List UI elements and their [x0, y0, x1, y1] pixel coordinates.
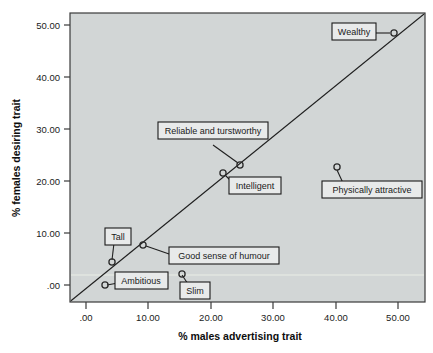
y-axis-tick-labels: 50.00 40.00 30.00 20.00 10.00 .00 [36, 20, 60, 291]
y-tick-label-40: 40.00 [36, 72, 60, 83]
y-tick-label-30: 30.00 [36, 124, 60, 135]
x-tick-label-40: 40.00 [324, 312, 348, 323]
callout-intelligent[interactable]: Intelligent [229, 177, 281, 194]
y-tick-label-0: .00 [47, 280, 60, 291]
scatter-plot-figure: 50.00 40.00 30.00 20.00 10.00 .00 .00 10… [0, 0, 433, 353]
x-axis-title: % males advertising trait [178, 330, 302, 342]
y-tick-label-50: 50.00 [36, 20, 60, 31]
y-axis-ticks [64, 25, 70, 285]
callout-physically-attractive[interactable]: Physically attractive [322, 181, 422, 198]
callout-label-wealthy: Wealthy [338, 27, 371, 37]
x-tick-label-50: 50.00 [386, 312, 410, 323]
y-tick-label-20: 20.00 [36, 176, 60, 187]
callout-reliable-and-turstworthy[interactable]: Reliable and turstworthy [158, 122, 268, 139]
callout-tall[interactable]: Tall [105, 228, 131, 245]
y-axis-title: % females desiring trait [10, 99, 22, 217]
y-tick-label-10: 10.00 [36, 228, 60, 239]
callout-label-reliable-and-turstworthy: Reliable and turstworthy [165, 126, 262, 136]
x-tick-label-30: 30.00 [261, 312, 285, 323]
callout-slim[interactable]: Slim [180, 282, 210, 299]
callout-label-tall: Tall [111, 232, 125, 242]
x-axis-ticks [86, 302, 398, 309]
callout-label-slim: Slim [186, 286, 204, 296]
x-tick-label-10: 10.00 [136, 312, 160, 323]
x-tick-label-0: .00 [79, 312, 92, 323]
callout-good-sense-of-humour[interactable]: Good sense of humour [169, 247, 279, 264]
x-axis-tick-labels: .00 10.00 20.00 30.00 40.00 50.00 [79, 312, 410, 323]
x-tick-label-20: 20.00 [199, 312, 223, 323]
callout-label-intelligent: Intelligent [236, 181, 275, 191]
callout-label-ambitious: Ambitious [121, 276, 161, 286]
callout-ambitious[interactable]: Ambitious [115, 272, 168, 289]
chart-canvas: 50.00 40.00 30.00 20.00 10.00 .00 .00 10… [0, 0, 433, 353]
callout-wealthy[interactable]: Wealthy [332, 23, 376, 40]
callout-label-physically-attractive: Physically attractive [332, 185, 411, 195]
callout-label-good-sense-of-humour: Good sense of humour [178, 251, 270, 261]
